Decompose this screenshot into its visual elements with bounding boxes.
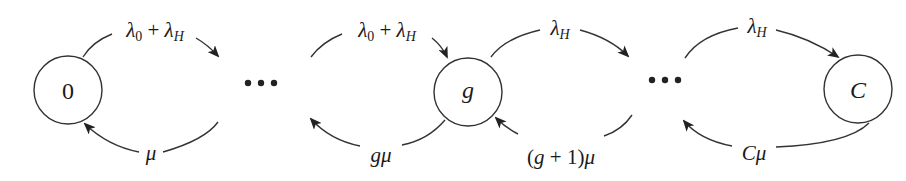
arc-dots2-to-C (685, 28, 738, 58)
state-label-C: C (850, 78, 866, 102)
arc-0-to-dots (83, 34, 112, 57)
arc-C-to-dots2-right (776, 123, 869, 147)
ellipsis-dots-2 (649, 77, 681, 83)
arrow-C-to-dots2 (684, 121, 732, 146)
arc-dots-to-0-right (163, 122, 218, 152)
arrow-g-to-dots2 (580, 30, 628, 56)
arc-g-to-dots2 (491, 30, 540, 57)
ellipsis-dots-1 (245, 80, 277, 86)
rate-label-C-forward: λH (747, 16, 766, 40)
arc-dots-to-g (311, 34, 342, 57)
rate-label-C-backward: Cμ (742, 143, 767, 164)
rate-label-g-incoming-forward: λ0 + λH (358, 20, 416, 44)
rate-label-g-incoming-backward: (g + 1)μ (527, 147, 595, 168)
rate-label-0-forward: λ0 + λH (126, 20, 184, 44)
arrow-dots2-to-C (776, 30, 838, 57)
arc-g-to-dots-right (402, 120, 445, 145)
arrow-0-to-dots (196, 38, 218, 56)
state-label-g: g (462, 78, 474, 102)
rate-label-g-backward: gμ (370, 145, 391, 166)
rate-label-g-outgoing-forward: λH (550, 18, 569, 42)
arrow-dots-to-0 (85, 124, 139, 152)
arrow-dots-to-g (432, 38, 447, 57)
arrow-g-to-dots (311, 119, 360, 146)
rate-label-0-backward: μ (146, 143, 157, 164)
state-label-0: 0 (62, 79, 74, 103)
arc-dots2-to-g-right (604, 115, 632, 136)
arrow-dots2-to-g (496, 118, 518, 134)
